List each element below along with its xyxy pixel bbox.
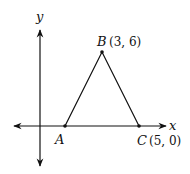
point-b-coords: (3, 6)	[109, 35, 141, 49]
point-c-coords: (5, 0)	[149, 134, 181, 148]
point-b	[100, 50, 104, 54]
point-c-label: C	[137, 133, 147, 148]
point-b-label: B	[96, 34, 107, 49]
point-c	[137, 124, 141, 128]
y-axis-label: y	[35, 9, 44, 24]
coordinate-plane-diagram: x y A B (3, 6) C (5, 0)	[0, 0, 190, 174]
point-a	[63, 124, 67, 128]
x-axis-label: x	[169, 118, 177, 133]
point-a-label: A	[54, 132, 64, 147]
triangle-abc	[65, 52, 139, 126]
